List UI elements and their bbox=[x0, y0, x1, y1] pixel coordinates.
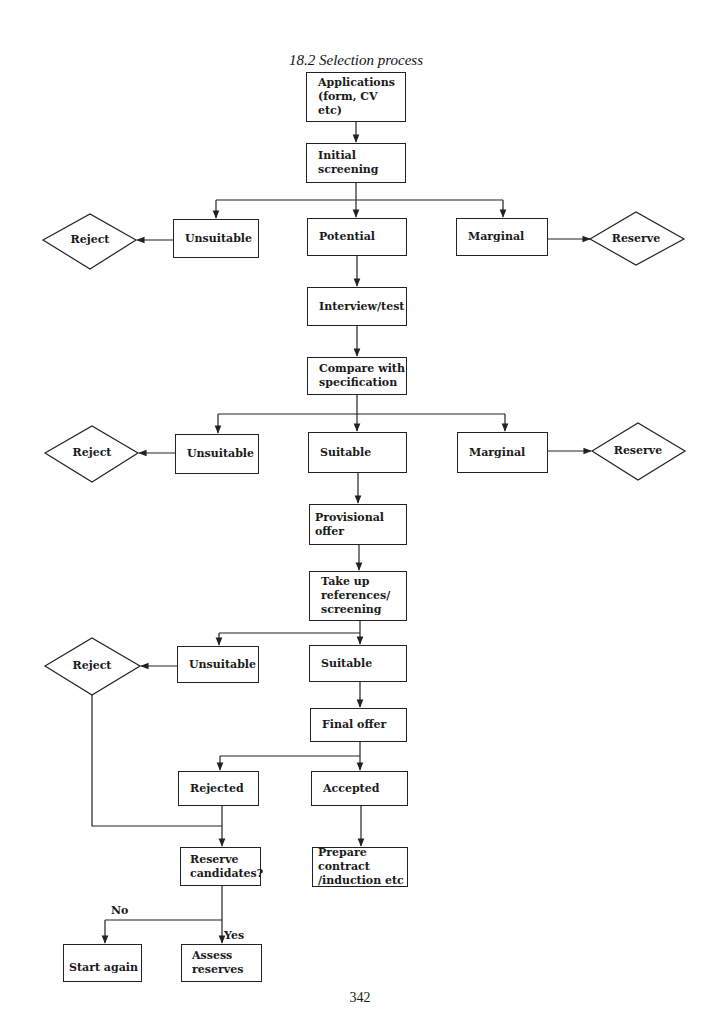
page-number: 342 bbox=[340, 990, 380, 1006]
provisional-offer-box: Provisional offer bbox=[309, 504, 407, 545]
prepare-contract-box: Prepare contract /induction etc bbox=[312, 847, 408, 887]
reject-label-2: Reject bbox=[62, 446, 122, 460]
reject-label-3: Reject bbox=[62, 659, 122, 673]
applications-box: Applications (form, CV etc) bbox=[306, 72, 406, 122]
suitable-box-2: Suitable bbox=[308, 432, 407, 473]
start-again-box: Start again bbox=[63, 944, 142, 982]
unsuitable-box-2: Unsuitable bbox=[175, 434, 259, 474]
take-up-references-box: Take up references/ screening bbox=[309, 571, 407, 621]
interview-test-box: Interview/test bbox=[307, 287, 407, 326]
marginal-box-1: Marginal bbox=[456, 218, 548, 256]
marginal-box-2: Marginal bbox=[457, 432, 548, 473]
compare-specification-box: Compare with specification bbox=[307, 357, 407, 395]
no-edge-label: No bbox=[111, 904, 128, 917]
unsuitable-box-1: Unsuitable bbox=[173, 219, 259, 258]
potential-box: Potential bbox=[307, 218, 407, 256]
initial-screening-box: Initial screening bbox=[306, 143, 406, 183]
reject-label-1: Reject bbox=[60, 233, 120, 247]
reserve-label-1: Reserve bbox=[606, 232, 666, 246]
suitable-box-3: Suitable bbox=[309, 645, 407, 682]
accepted-box: Accepted bbox=[311, 771, 408, 806]
reserve-label-2: Reserve bbox=[608, 444, 668, 458]
unsuitable-box-3: Unsuitable bbox=[177, 646, 259, 683]
yes-edge-label: Yes bbox=[224, 929, 244, 942]
final-offer-box: Final offer bbox=[310, 708, 407, 742]
assess-reserves-box: Assess reserves bbox=[181, 944, 262, 982]
reserve-candidates-box: Reserve candidates? bbox=[180, 847, 261, 886]
rejected-box: Rejected bbox=[178, 771, 259, 806]
